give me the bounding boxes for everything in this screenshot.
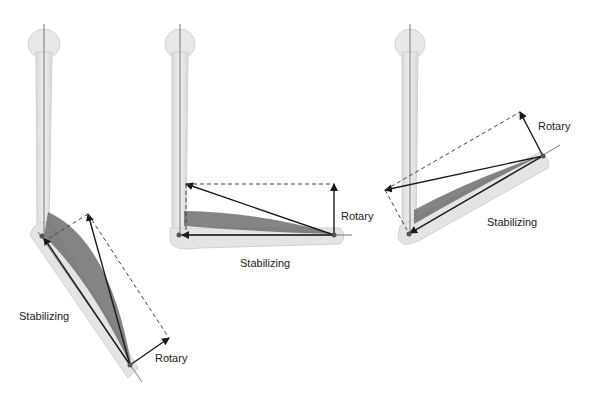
panel-flexed (385, 24, 560, 244)
diagram-canvas (0, 0, 590, 396)
elbow-joint-point (177, 233, 182, 238)
rotary-label: Rotary (538, 120, 570, 132)
stabilizing-label: Stabilizing (240, 257, 290, 269)
insertion-point (128, 363, 133, 368)
insertion-point (541, 154, 546, 159)
panel-ninety-degrees (165, 24, 352, 249)
rotary-label: Rotary (341, 210, 373, 222)
insertion-point (332, 233, 337, 238)
panel-extended (28, 24, 169, 382)
rotary-vector-arrow (520, 112, 543, 156)
stabilizing-label: Stabilizing (487, 216, 537, 228)
elbow-joint-point (407, 232, 412, 237)
rotary-label: Rotary (155, 352, 187, 364)
elbow-joint-point (40, 234, 45, 239)
stabilizing-label: Stabilizing (19, 310, 69, 322)
